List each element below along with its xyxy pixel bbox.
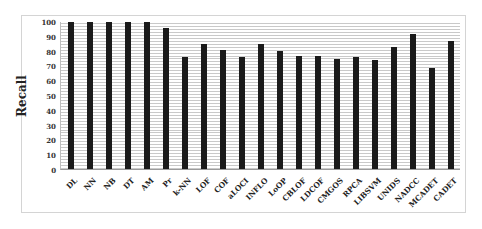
bar-mcadet: [429, 68, 435, 169]
y-tick-label: 40: [46, 106, 56, 115]
bar-am: [144, 22, 150, 169]
bar-dl: [68, 22, 74, 169]
bar-ldcof: [315, 56, 321, 169]
y-tick-label: 10: [46, 151, 56, 160]
y-axis-label: Recall: [15, 75, 29, 117]
bar-cmgos: [334, 59, 340, 169]
y-tick-label: 70: [46, 62, 56, 71]
bar-aloci: [239, 57, 245, 169]
bar-nb: [106, 22, 112, 169]
bar-rpca: [353, 57, 359, 169]
bar-nn: [87, 22, 93, 169]
y-tick-label: 80: [46, 47, 56, 56]
bar-cblof: [296, 56, 302, 169]
bar-libsvm: [372, 60, 378, 169]
bar-lof: [201, 44, 207, 169]
bar-inflo: [258, 44, 264, 169]
plot-area: [60, 22, 460, 170]
bar-k-nn: [182, 57, 188, 169]
bar-cadet: [448, 41, 454, 169]
y-tick-label: 50: [46, 92, 56, 101]
bar-unids: [391, 47, 397, 169]
y-tick-label: 20: [46, 136, 56, 145]
y-tick-label: 100: [41, 18, 56, 27]
y-tick-label: 0: [51, 166, 56, 175]
y-tick-label: 90: [46, 32, 56, 41]
bar-cof: [220, 50, 226, 169]
bar-dt: [125, 22, 131, 169]
bar-loop: [277, 51, 283, 169]
bar-nadcc: [410, 34, 416, 169]
y-tick-label: 30: [46, 121, 56, 130]
bar-pr: [163, 28, 169, 169]
y-tick-label: 60: [46, 77, 56, 86]
